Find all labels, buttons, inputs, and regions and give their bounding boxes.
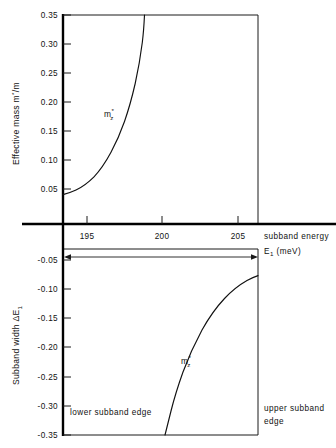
y-ticklabel: -0.10 xyxy=(38,285,59,294)
two-panel-line-chart: 0.35 0.30 0.25 0.20 0.15 0.10 0.05 Effec… xyxy=(0,0,336,448)
top-panel-curve-label: m*z xyxy=(104,107,114,120)
x-axis-title-line2: E1 (meV) xyxy=(264,247,301,257)
x-ticklabel: 195 xyxy=(80,232,95,241)
bottom-panel-curve-label: m*z xyxy=(181,354,191,367)
y-ticklabel: 0.25 xyxy=(41,69,58,78)
x-ticklabel: 205 xyxy=(231,232,246,241)
y-axis-title-tail: /m xyxy=(11,82,21,92)
x-axis-title-line1: subband energy xyxy=(264,232,329,241)
y-axis-title-main: Subband width ΔE xyxy=(11,309,21,385)
y-ticklabel: -0.20 xyxy=(38,343,59,352)
y-axis-title-main: Effective mass m xyxy=(11,95,21,165)
y-axis-title-sub: 1 xyxy=(16,305,23,309)
y-ticklabel: 0.15 xyxy=(41,127,58,136)
bottom-panel-y-axis-title: Subband width ΔE1 xyxy=(11,305,23,385)
y-ticklabel: 0.10 xyxy=(41,156,58,165)
x-ticklabel: 200 xyxy=(155,232,170,241)
y-ticklabel: 0.20 xyxy=(41,98,58,107)
upper-subband-edge-line1: upper subband xyxy=(264,404,324,413)
y-ticklabel: -0.05 xyxy=(38,256,59,265)
upper-subband-edge-line2: edge xyxy=(264,417,284,426)
y-ticklabel: -0.15 xyxy=(38,314,59,323)
y-ticklabel: 0.30 xyxy=(41,40,58,49)
y-ticklabel: 0.05 xyxy=(41,185,58,194)
lower-subband-edge-label: lower subband edge xyxy=(70,408,152,417)
y-ticklabel: -0.30 xyxy=(38,402,59,411)
y-ticklabel: -0.25 xyxy=(38,373,59,382)
curve-label-mz: m*z xyxy=(181,354,191,367)
y-axis-title-text: Subband width ΔE1 xyxy=(11,305,23,385)
figure-container: 0.35 0.30 0.25 0.20 0.15 0.10 0.05 Effec… xyxy=(0,0,336,448)
curve-label-mz: m*z xyxy=(104,107,114,120)
y-ticklabel: 0.35 xyxy=(41,11,58,20)
y-ticklabel: -0.35 xyxy=(38,431,59,440)
